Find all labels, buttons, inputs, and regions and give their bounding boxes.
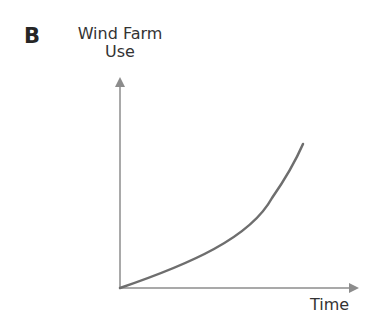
wind-farm-use-curve [120, 144, 303, 288]
x-axis-label: Time [310, 296, 349, 314]
chart-plot-area [0, 0, 381, 321]
